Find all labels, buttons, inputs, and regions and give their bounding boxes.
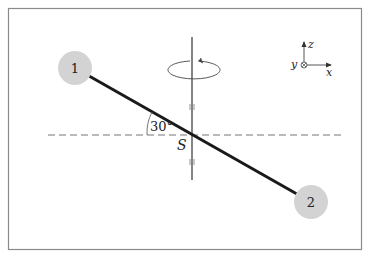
diagram-canvas: 1 2 30° S z y x bbox=[0, 0, 372, 259]
coordinate-axes-icon bbox=[301, 42, 331, 68]
z-axis-label: z bbox=[307, 38, 314, 51]
x-axis-label: x bbox=[326, 66, 333, 79]
rod bbox=[75, 68, 311, 202]
diagram: 1 2 30° S z y x bbox=[0, 0, 372, 259]
rotation-arrowhead-icon bbox=[199, 58, 203, 63]
body-2: 2 bbox=[294, 185, 328, 219]
body-1-label: 1 bbox=[71, 61, 79, 76]
body-1: 1 bbox=[58, 51, 92, 85]
rotation-arrow-icon bbox=[168, 61, 220, 79]
body-2-label: 2 bbox=[307, 195, 315, 210]
angle-label: 30° bbox=[150, 119, 173, 134]
y-axis-label: y bbox=[290, 58, 298, 71]
center-of-mass-label: S bbox=[177, 137, 187, 153]
